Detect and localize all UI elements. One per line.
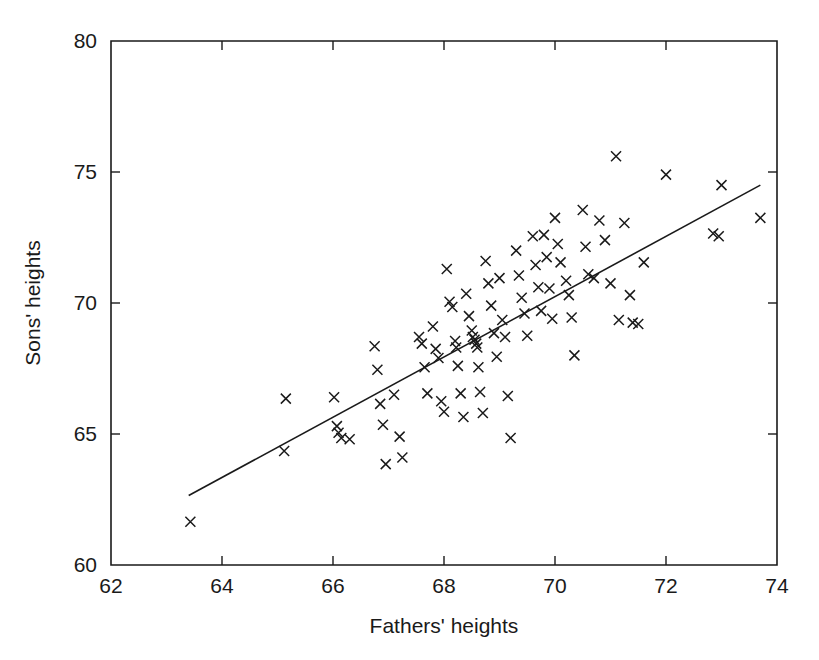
scatter-point-marker (329, 392, 339, 402)
scatter-point-marker (378, 420, 388, 430)
scatter-point-marker (428, 322, 438, 332)
scatter-point-marker (550, 213, 560, 223)
scatter-point-marker (542, 252, 552, 262)
scatter-point-marker (531, 260, 541, 270)
scatter-point-marker (473, 362, 483, 372)
y-tick-label: 65 (74, 422, 97, 445)
scatter-point-marker (553, 239, 563, 249)
scatter-point-marker (345, 434, 355, 444)
scatter-point-marker (281, 394, 291, 404)
scatter-point-marker (279, 446, 289, 456)
y-tick-label: 60 (74, 553, 97, 576)
scatter-point-marker (481, 256, 491, 266)
scatter-point-marker (611, 151, 621, 161)
scatter-point-marker (483, 278, 493, 288)
x-tick-label: 72 (654, 574, 677, 597)
scatter-point-marker (464, 311, 474, 321)
x-tick-label: 66 (321, 574, 344, 597)
scatter-point-marker (578, 205, 588, 215)
x-tick-label: 68 (432, 574, 455, 597)
y-tick-label: 75 (74, 160, 97, 183)
scatter-point-marker (600, 235, 610, 245)
x-tick-label: 70 (543, 574, 566, 597)
scatter-point-marker (506, 433, 516, 443)
scatter-point-marker (500, 332, 510, 342)
scatter-point-marker (375, 399, 385, 409)
scatter-point-marker (422, 388, 432, 398)
scatter-point-marker (661, 170, 671, 180)
scatter-point-marker (511, 246, 521, 256)
scatter-point-marker (614, 315, 624, 325)
scatter-point-marker (581, 242, 591, 252)
scatter-point-marker (594, 215, 604, 225)
scatter-point-marker (503, 391, 513, 401)
plot-frame (111, 41, 777, 565)
x-axis-title: Fathers' heights (370, 614, 519, 637)
scatter-point-marker (567, 312, 577, 322)
scatter-point-marker (439, 407, 449, 417)
scatter-point-marker (547, 314, 557, 324)
scatter-point-marker (431, 344, 441, 354)
y-axis-title: Sons' heights (21, 240, 44, 365)
scatter-point-marker (486, 301, 496, 311)
scatter-point-marker (389, 390, 399, 400)
scatter-point-marker (372, 365, 382, 375)
scatter-point-marker (517, 293, 527, 303)
scatter-point-marker (625, 290, 635, 300)
x-tick-label: 62 (99, 574, 122, 597)
x-tick-label: 64 (210, 574, 234, 597)
scatter-point-marker (569, 350, 579, 360)
scatter-point-marker (495, 273, 505, 283)
scatter-point-marker (522, 331, 532, 341)
scatter-point-marker (514, 270, 524, 280)
scatter-point-marker (561, 276, 571, 286)
y-tick-label: 70 (74, 291, 97, 314)
scatter-point-marker (461, 289, 471, 299)
scatter-point-marker (478, 408, 488, 418)
scatter-point-marker (370, 341, 380, 351)
scatter-point-marker (442, 264, 452, 274)
scatter-plot-figure: 626466687072746065707580Fathers' heights… (0, 0, 819, 660)
scatter-point-marker (536, 306, 546, 316)
regression-line (189, 185, 761, 495)
scatter-point-marker (619, 218, 629, 228)
y-tick-label: 80 (74, 29, 97, 52)
scatter-point-marker (755, 213, 765, 223)
scatter-point-marker (528, 231, 538, 241)
scatter-point-marker (606, 278, 616, 288)
scatter-point-marker (395, 432, 405, 442)
scatter-point-marker (544, 284, 554, 294)
scatter-point-marker (533, 282, 543, 292)
scatter-point-marker (397, 453, 407, 463)
plot-canvas: 626466687072746065707580Fathers' heights… (0, 0, 819, 660)
scatter-point-marker (717, 180, 727, 190)
scatter-point-marker (332, 421, 342, 431)
scatter-point-marker (453, 361, 463, 371)
scatter-point-marker (556, 257, 566, 267)
scatter-point-marker (456, 388, 466, 398)
scatter-point-marker (475, 387, 485, 397)
scatter-point-marker (381, 459, 391, 469)
scatter-point-marker (492, 352, 502, 362)
scatter-point-marker (436, 396, 446, 406)
scatter-point-marker (539, 230, 549, 240)
scatter-point-marker (458, 412, 468, 422)
x-tick-label: 74 (765, 574, 789, 597)
scatter-point-marker (639, 257, 649, 267)
scatter-point-marker (185, 517, 195, 527)
